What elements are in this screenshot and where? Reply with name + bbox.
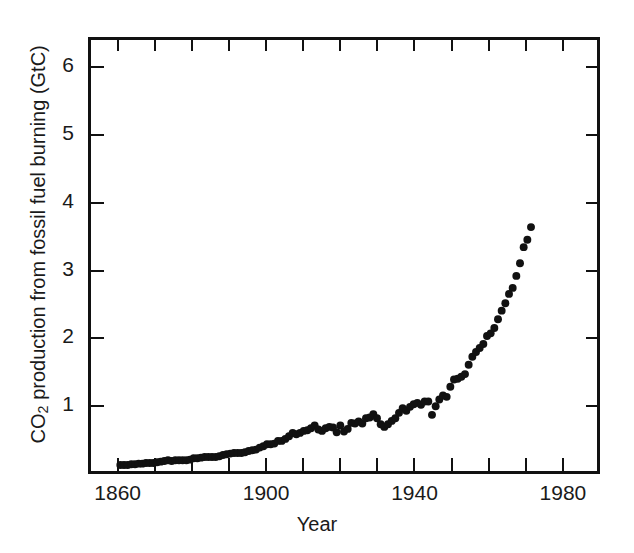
x-tick-1930 (376, 458, 378, 471)
y-tick-label-2: 2 (22, 324, 74, 348)
x-tick-1860 (117, 458, 119, 471)
y-tick-right-6 (586, 66, 597, 68)
data-point (461, 370, 469, 378)
x-tick-1870 (154, 458, 156, 471)
y-tick-6 (91, 66, 104, 68)
y-tick-4 (91, 202, 104, 204)
x-tick-top-1860 (117, 40, 119, 51)
y-axis-title-prefix: CO (27, 413, 49, 443)
x-tick-top-1870 (154, 40, 156, 51)
data-point (494, 315, 502, 323)
y-tick-2 (91, 337, 104, 339)
co2-emissions-figure: CO2 production from fossil fuel burning … (0, 0, 634, 553)
x-tick-top-1910 (302, 40, 304, 51)
y-tick-label-5: 5 (22, 121, 74, 145)
data-point (333, 428, 341, 436)
y-tick-label-3: 3 (22, 257, 74, 281)
data-point (523, 236, 531, 244)
y-tick-label-6: 6 (22, 53, 74, 77)
y-tick-right-4 (586, 202, 597, 204)
x-tick-1980 (562, 458, 564, 471)
x-tick-label-1900: 1900 (221, 481, 311, 505)
x-tick-top-1930 (376, 40, 378, 51)
data-point (424, 398, 432, 406)
data-point (527, 223, 535, 231)
data-point (443, 393, 451, 401)
x-tick-top-1970 (525, 40, 527, 51)
x-tick-1940 (413, 458, 415, 471)
x-tick-1970 (525, 458, 527, 471)
y-tick-right-5 (586, 134, 597, 136)
x-tick-1960 (488, 458, 490, 471)
x-tick-1910 (302, 458, 304, 471)
x-tick-label-1940: 1940 (369, 481, 459, 505)
data-point (498, 307, 506, 315)
x-tick-top-1980 (562, 40, 564, 51)
data-point (509, 284, 517, 292)
x-tick-1890 (228, 458, 230, 471)
y-tick-right-1 (586, 405, 597, 407)
y-axis-title-suffix: production from fossil fuel burning (GtC… (27, 45, 49, 405)
x-axis-title: Year (0, 513, 634, 536)
data-point (512, 272, 520, 280)
y-tick-3 (91, 270, 104, 272)
y-tick-5 (91, 134, 104, 136)
data-point (516, 259, 524, 267)
scatter-plot-canvas (91, 40, 597, 471)
y-tick-1 (91, 405, 104, 407)
y-tick-label-4: 4 (22, 189, 74, 213)
x-tick-top-1920 (339, 40, 341, 51)
x-tick-label-1980: 1980 (518, 481, 608, 505)
data-point (446, 383, 454, 391)
x-tick-top-1880 (191, 40, 193, 51)
y-tick-label-1: 1 (22, 392, 74, 416)
x-tick-top-1900 (265, 40, 267, 51)
x-tick-1920 (339, 458, 341, 471)
x-tick-1900 (265, 458, 267, 471)
x-tick-top-1950 (451, 40, 453, 51)
x-tick-top-1940 (413, 40, 415, 51)
x-tick-top-1890 (228, 40, 230, 51)
plot-frame (88, 37, 600, 474)
x-tick-1880 (191, 458, 193, 471)
data-point (428, 411, 436, 419)
x-tick-top-1960 (488, 40, 490, 51)
data-point (501, 299, 509, 307)
data-point (479, 340, 487, 348)
x-tick-label-1860: 1860 (73, 481, 163, 505)
x-tick-1950 (451, 458, 453, 471)
data-point (490, 324, 498, 332)
data-point (432, 402, 440, 410)
data-point (465, 361, 473, 369)
y-tick-right-2 (586, 337, 597, 339)
y-tick-right-3 (586, 270, 597, 272)
data-point (520, 243, 528, 251)
